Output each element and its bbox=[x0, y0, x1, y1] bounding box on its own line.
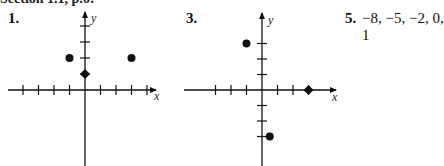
plotted-point bbox=[266, 133, 274, 141]
graph-3-axes bbox=[184, 13, 336, 166]
plotted-point bbox=[304, 85, 314, 95]
y-axis-label: y bbox=[267, 13, 274, 27]
x-axis-label: x bbox=[331, 90, 338, 104]
problem-3-graph: x y bbox=[0, 0, 444, 166]
plotted-point bbox=[243, 40, 251, 48]
